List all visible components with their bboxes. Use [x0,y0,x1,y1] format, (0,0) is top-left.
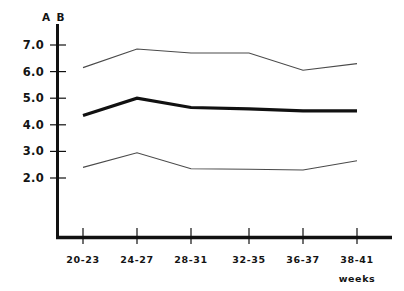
y-tick-label-2: 2.0 [23,171,44,185]
chart-container: A B 7.0 6.0 5.0 4.0 3.0 2.0 [0,0,404,291]
x-tick-label-3: 28-31 [174,254,207,265]
series-mean-line [83,98,357,115]
x-tick-label-4: 32-35 [232,254,265,265]
x-axis-tick-labels: 20-23 24-27 28-31 32-35 36-37 38-41 [66,254,373,265]
y-tick-label-4: 4.0 [23,118,44,132]
x-axis-label: weeks [339,273,376,284]
line-chart: A B 7.0 6.0 5.0 4.0 3.0 2.0 [0,0,404,291]
y-tick-label-6: 6.0 [23,65,44,79]
y-tick-label-5: 5.0 [23,91,44,105]
y-tick-label-3: 3.0 [23,144,44,158]
x-tick-label-5: 36-37 [286,254,319,265]
x-tick-label-6: 38-41 [340,254,373,265]
series-lower-line [83,153,357,170]
series-group [83,49,357,170]
y-axis-label: A B [42,11,66,23]
y-tick-label-7: 7.0 [23,38,44,52]
series-upper-line [83,49,357,70]
y-axis-tick-labels: 7.0 6.0 5.0 4.0 3.0 2.0 [23,38,44,185]
x-tick-label-1: 20-23 [66,254,99,265]
x-tick-label-2: 24-27 [120,254,153,265]
